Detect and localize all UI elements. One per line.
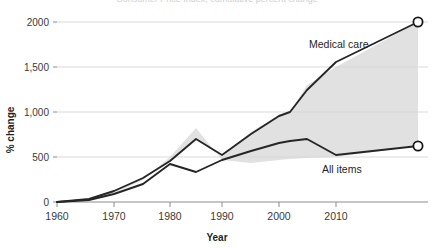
x-tick-marks <box>57 202 336 207</box>
chart-container: Consumer Price Index, cumulative percent… <box>0 0 434 248</box>
x-tick-label-1980: 1980 <box>158 210 182 222</box>
x-tick-label-1990: 1990 <box>210 210 234 222</box>
y-tick-marks <box>53 22 57 202</box>
y-tick-label-2000: 2000 <box>27 17 50 28</box>
series-annotation-medical-care: Medical care <box>309 38 369 50</box>
y-tick-label-1000: 1,000 <box>24 107 49 118</box>
x-tick-labels: 1960 1970 1980 1990 2000 2010 <box>45 210 348 222</box>
x-axis-title: Year <box>206 232 227 243</box>
x-tick-label-2010: 2010 <box>324 210 348 222</box>
y-axis-title: % change <box>5 106 16 153</box>
y-tick-label-500: 500 <box>32 152 49 163</box>
y-tick-label-0: 0 <box>43 197 49 208</box>
x-tick-label-2000: 2000 <box>267 210 291 222</box>
x-tick-label-1970: 1970 <box>102 210 126 222</box>
endpoint-marker-all-items <box>413 141 422 150</box>
line-chart-svg: 2000 1,500 1,000 500 0 1960 1970 1980 19… <box>0 0 434 248</box>
series-annotation-all-items: All items <box>322 163 362 175</box>
chart-title: Consumer Price Index, cumulative percent… <box>0 0 434 4</box>
y-tick-label-1500: 1,500 <box>24 62 49 73</box>
y-tick-labels: 2000 1,500 1,000 500 0 <box>24 17 49 208</box>
x-tick-label-1960: 1960 <box>45 210 69 222</box>
endpoint-marker-medical-care <box>413 17 422 26</box>
